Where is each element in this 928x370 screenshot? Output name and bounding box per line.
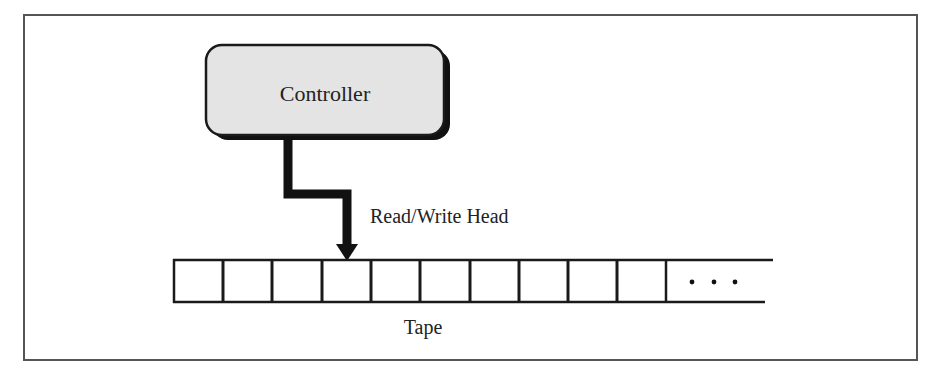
tape <box>173 259 773 303</box>
ellipsis-dot <box>712 280 717 285</box>
ellipsis-dot <box>733 280 738 285</box>
read-write-head-arrow <box>288 138 358 261</box>
arrow-shaft <box>288 138 347 246</box>
turing-machine-diagram: Controller Read/Write Head Tape <box>0 0 928 370</box>
arrow-head-icon <box>336 244 358 261</box>
ellipsis-dot <box>690 280 695 285</box>
controller-box: Controller <box>206 45 450 140</box>
head-label: Read/Write Head <box>370 205 509 227</box>
tape-label: Tape <box>404 316 443 339</box>
controller-label: Controller <box>280 81 371 106</box>
